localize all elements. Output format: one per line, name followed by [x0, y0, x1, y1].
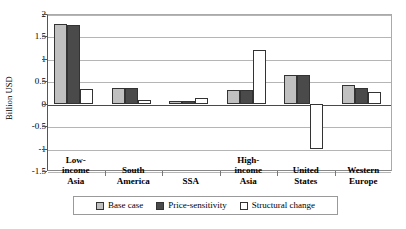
bar-base-case	[169, 101, 182, 104]
x-axis-label: SSA	[162, 176, 220, 187]
x-axis-category-labels: Low- income AsiaSouth AmericaSSAHigh- in…	[47, 140, 392, 186]
bar-price-sensitivity	[182, 101, 195, 104]
legend-swatch-base-case	[96, 202, 104, 210]
legend-item-structural-change: Structural change	[240, 201, 315, 210]
bar-price-sensitivity	[125, 88, 138, 103]
bar-base-case	[342, 85, 355, 104]
bar-structural-change	[138, 100, 151, 104]
x-axis-label: United States	[277, 165, 335, 186]
bar-structural-change	[368, 92, 381, 104]
x-axis-label: Low- income Asia	[47, 155, 105, 187]
legend-swatch-structural-change	[240, 202, 248, 210]
bar-base-case	[227, 90, 240, 103]
bar-price-sensitivity	[297, 75, 310, 104]
x-axis-label: South America	[105, 165, 163, 186]
chart-legend: Base case Price-sensitivity Structural c…	[73, 196, 338, 215]
x-axis-label: High- income Asia	[220, 155, 278, 187]
x-axis-label: Western Europe	[335, 165, 393, 186]
bar-base-case	[54, 24, 67, 103]
legend-label-base-case: Base case	[108, 201, 143, 210]
bar-base-case	[112, 88, 125, 103]
bar-price-sensitivity	[67, 25, 80, 104]
y-axis-ticks: 21.510.50-0.5-1-1.5	[13, 14, 46, 171]
bar-price-sensitivity	[355, 88, 368, 104]
legend-label-price-sensitivity: Price-sensitivity	[168, 201, 227, 210]
bar-structural-change	[195, 98, 208, 103]
bar-structural-change	[253, 50, 266, 104]
legend-item-base-case: Base case	[96, 201, 143, 210]
bar-price-sensitivity	[240, 90, 253, 103]
bar-structural-change	[80, 89, 93, 104]
legend-swatch-price-sensitivity	[156, 202, 164, 210]
bar-chart: Billion USD 21.510.50-0.5-1-1.5 Low- inc…	[0, 0, 406, 229]
bar-base-case	[284, 75, 297, 104]
legend-label-structural-change: Structural change	[252, 201, 315, 210]
legend-item-price-sensitivity: Price-sensitivity	[156, 201, 227, 210]
